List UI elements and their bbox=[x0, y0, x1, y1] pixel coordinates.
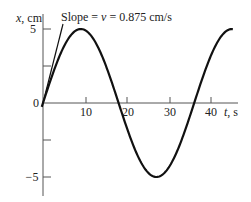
slope-annotation: Slope = v = 0.875 cm/s bbox=[61, 10, 172, 24]
y-label-5: 5 bbox=[30, 22, 36, 36]
chart: x, cm 5 0 −5 10 20 30 40 t, s Slope = v … bbox=[0, 0, 251, 202]
y-label-neg5: −5 bbox=[26, 170, 39, 184]
x-axis-label: t, s bbox=[224, 105, 238, 119]
y-label-0: 0 bbox=[33, 96, 39, 110]
x-label-40: 40 bbox=[205, 105, 217, 119]
x-label-10: 10 bbox=[80, 105, 92, 119]
y-axis-label: x, cm bbox=[15, 11, 43, 25]
x-label-30: 30 bbox=[164, 105, 176, 119]
